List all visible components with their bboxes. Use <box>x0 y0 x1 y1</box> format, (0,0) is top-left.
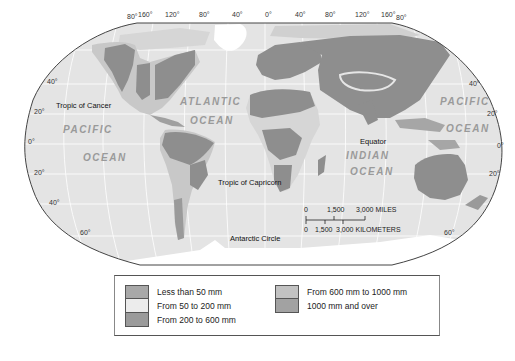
lon-label: 120° <box>165 11 179 18</box>
atlantic-ocean-label: OCEAN <box>190 115 234 126</box>
legend-swatch <box>125 313 149 327</box>
pacific-ocean-east-label: OCEAN <box>446 123 490 134</box>
pacific-ocean-west-label: OCEAN <box>83 152 127 163</box>
tropic-of-cancer-label: Tropic of Cancer <box>56 101 111 110</box>
lon-label: 120° <box>355 11 369 18</box>
lat-label: 40° <box>469 80 480 87</box>
legend-label: From 50 to 200 mm <box>157 301 231 311</box>
scale-km-3000: 3,000 KILOMETERS <box>336 226 401 233</box>
pacific-ocean-west-label: PACIFIC <box>63 124 113 135</box>
atlantic-ocean-label: ATLANTIC <box>180 96 241 107</box>
lon-label: 80° <box>199 11 210 18</box>
world-precipitation-map: 80° 160° 120° 80° 40° 0° 40° 80° 120° 16… <box>0 0 515 270</box>
legend-swatch <box>125 299 149 313</box>
lat-label: 60° <box>80 229 91 236</box>
lat-label: 0° <box>28 138 35 145</box>
lon-label: 0° <box>265 11 272 18</box>
legend-item: Less than 50 mm <box>125 285 236 299</box>
legend-item: From 200 to 600 mm <box>125 313 236 327</box>
lon-label: 80° <box>325 11 336 18</box>
legend-column-right: From 600 mm to 1000 mm 1000 mm and over <box>275 285 407 313</box>
indian-ocean-label: OCEAN <box>350 166 394 177</box>
legend-column-left: Less than 50 mm From 50 to 200 mm From 2… <box>125 285 236 327</box>
tropic-of-capricorn-label: Tropic of Capricorn <box>218 178 282 187</box>
legend-label: From 600 mm to 1000 mm <box>307 287 407 297</box>
scale-km-0: 0 <box>304 226 308 233</box>
legend-label: 1000 mm and over <box>307 301 378 311</box>
lon-label: 80° <box>396 14 407 21</box>
lon-label: 160° <box>138 11 152 18</box>
antarctic-circle-label: Antarctic Circle <box>230 234 280 243</box>
legend-label: Less than 50 mm <box>157 287 222 297</box>
legend-swatch <box>275 285 299 299</box>
lat-label: 40° <box>47 78 58 85</box>
legend-label: From 200 to 600 mm <box>157 315 236 325</box>
indian-ocean-label: INDIAN <box>346 150 389 161</box>
lon-label: 80° <box>127 13 138 20</box>
lat-label: 60° <box>444 229 455 236</box>
legend-swatch <box>275 299 299 313</box>
lat-label: 20° <box>487 110 498 117</box>
lat-label: 20° <box>34 108 45 115</box>
scale-km-1500: 1,500 <box>315 226 333 233</box>
legend-item: 1000 mm and over <box>275 299 407 313</box>
scale-miles-1500: 1,500 <box>327 206 345 213</box>
lat-label: 40° <box>49 199 60 206</box>
lat-label: 0° <box>497 142 504 149</box>
lat-label: 20° <box>34 169 45 176</box>
scale-miles-0: 0 <box>304 206 308 213</box>
legend-item: From 600 mm to 1000 mm <box>275 285 407 299</box>
map-graphic <box>0 0 515 270</box>
lon-label: 160° <box>381 11 395 18</box>
equator-label: Equator <box>360 137 386 146</box>
legend-item: From 50 to 200 mm <box>125 299 236 313</box>
pacific-ocean-east-label: PACIFIC <box>440 96 490 107</box>
scale-miles-3000: 3,000 MILES <box>356 206 396 213</box>
legend: Less than 50 mm From 50 to 200 mm From 2… <box>114 275 440 336</box>
legend-swatch <box>125 285 149 299</box>
lat-label: 20° <box>489 170 500 177</box>
lon-label: 40° <box>232 11 243 18</box>
lon-label: 40° <box>295 11 306 18</box>
